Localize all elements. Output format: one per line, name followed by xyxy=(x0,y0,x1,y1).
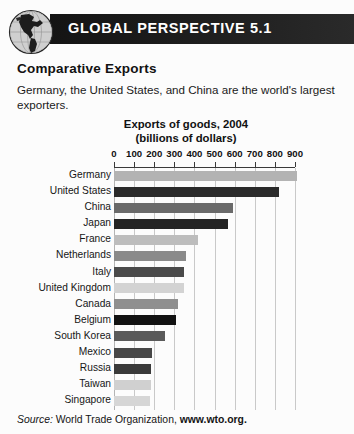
bar xyxy=(114,171,297,181)
category-label: Netherlands xyxy=(56,249,111,260)
article-body: Germany, the United States, and China ar… xyxy=(17,82,339,112)
bar xyxy=(114,396,150,406)
bar xyxy=(114,348,152,358)
bar xyxy=(114,251,186,261)
source-prefix: Source: xyxy=(17,414,53,425)
x-tick-mark xyxy=(275,162,276,167)
x-tick-label: 700 xyxy=(247,148,263,159)
chart-row: Singapore xyxy=(0,393,354,409)
x-tick-label: 400 xyxy=(186,148,202,159)
bar xyxy=(114,380,151,390)
bar xyxy=(114,299,178,309)
bar xyxy=(114,364,151,374)
chart-plot-area: 0100200300400500600700800900 GermanyUnit… xyxy=(0,148,354,410)
page-title: Comparative Exports xyxy=(17,61,157,76)
chart-row: Japan xyxy=(0,216,354,232)
category-label: South Korea xyxy=(54,330,111,341)
x-tick-label: 500 xyxy=(207,148,223,159)
x-axis-ticks: 0100200300400500600700800900 xyxy=(0,148,354,162)
exports-bar-chart: Exports of goods, 2004 (billions of doll… xyxy=(0,118,354,410)
chart-row: Canada xyxy=(0,297,354,313)
chart-row: United Kingdom xyxy=(0,281,354,297)
chart-row: United States xyxy=(0,184,354,200)
category-label: Germany xyxy=(69,169,111,180)
x-tick-label: 800 xyxy=(267,148,283,159)
globe-icon xyxy=(7,8,55,56)
category-label: Singapore xyxy=(65,394,111,405)
chart-row: Germany xyxy=(0,168,354,184)
category-label: Taiwan xyxy=(79,378,111,389)
category-label: Japan xyxy=(83,217,111,228)
x-tick-mark xyxy=(114,162,115,167)
category-label: Russia xyxy=(80,362,111,373)
category-label: Canada xyxy=(75,298,111,309)
source-url[interactable]: www.wto.org. xyxy=(180,414,247,425)
x-tick-mark xyxy=(134,162,135,167)
bar xyxy=(114,187,279,197)
x-tick-mark xyxy=(174,162,175,167)
x-tick-mark xyxy=(215,162,216,167)
x-tick-label: 900 xyxy=(287,148,303,159)
banner: GLOBAL PERSPECTIVE 5.1 xyxy=(0,6,354,54)
category-label: France xyxy=(79,233,111,244)
category-label: United Kingdom xyxy=(39,282,112,293)
category-label: Mexico xyxy=(79,346,111,357)
chart-rows: GermanyUnited StatesChinaJapanFranceNeth… xyxy=(0,168,354,409)
x-tick-mark xyxy=(194,162,195,167)
category-label: Belgium xyxy=(74,314,111,325)
source-note: Source: World Trade Organization, www.wt… xyxy=(17,414,247,425)
chart-row: Italy xyxy=(0,265,354,281)
bar xyxy=(114,283,184,293)
chart-row: South Korea xyxy=(0,329,354,345)
x-tick-label: 100 xyxy=(126,148,142,159)
banner-title: GLOBAL PERSPECTIVE 5.1 xyxy=(68,20,272,36)
chart-row: France xyxy=(0,232,354,248)
x-tick-label: 600 xyxy=(227,148,243,159)
bar xyxy=(114,219,228,229)
bar xyxy=(114,315,176,325)
category-label: Italy xyxy=(92,266,111,277)
bar xyxy=(114,267,184,277)
x-tick-label: 200 xyxy=(146,148,162,159)
x-tick-mark xyxy=(235,162,236,167)
source-organization: World Trade Organization, xyxy=(56,414,177,425)
chart-row: Belgium xyxy=(0,313,354,329)
x-tick-label: 300 xyxy=(166,148,182,159)
category-label: China xyxy=(84,201,111,212)
bar xyxy=(114,235,198,245)
chart-row: China xyxy=(0,200,354,216)
chart-row: Netherlands xyxy=(0,248,354,264)
chart-row: Taiwan xyxy=(0,377,354,393)
chart-row: Mexico xyxy=(0,345,354,361)
x-tick-label: 0 xyxy=(111,148,116,159)
bar xyxy=(114,331,165,341)
chart-subtitle: (billions of dollars) xyxy=(18,132,354,146)
bar xyxy=(114,203,233,213)
chart-row: Russia xyxy=(0,361,354,377)
category-label: United States xyxy=(50,185,111,196)
x-tick-mark xyxy=(295,162,296,167)
x-tick-mark xyxy=(255,162,256,167)
chart-title: Exports of goods, 2004 (billions of doll… xyxy=(0,118,354,145)
x-tick-mark xyxy=(154,162,155,167)
chart-title-line1: Exports of goods, 2004 xyxy=(18,118,354,132)
global-perspective-figure: GLOBAL PERSPECTIVE 5.1 Comparative Expor… xyxy=(0,0,354,434)
